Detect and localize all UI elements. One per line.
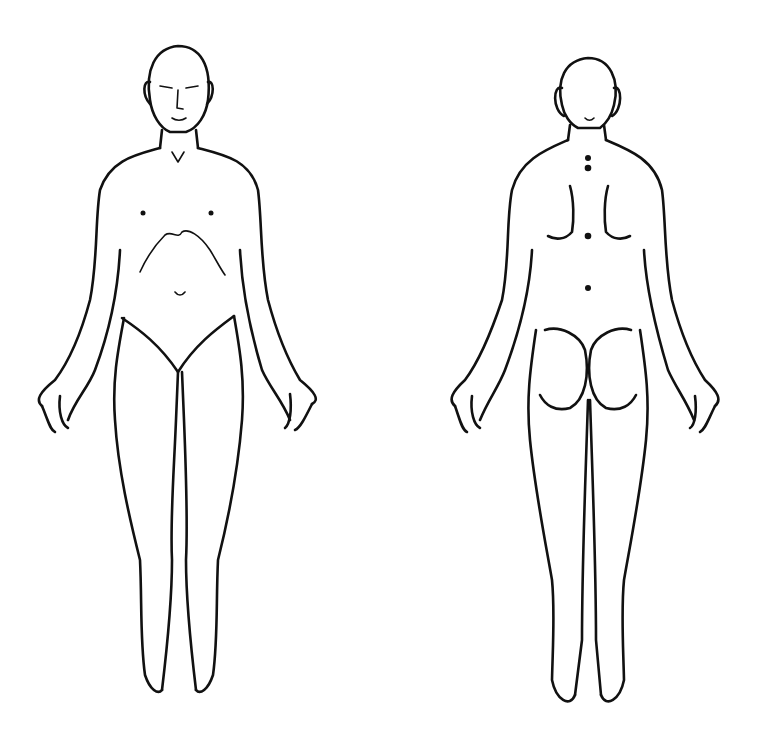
- body-diagram: [0, 0, 764, 737]
- front-body-figure: [39, 46, 316, 692]
- back-body-figure: [452, 58, 719, 701]
